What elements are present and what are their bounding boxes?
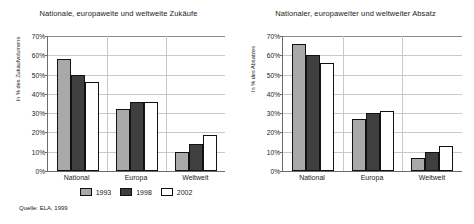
x-axis-tick-national: National xyxy=(47,174,106,181)
y-axis-tick-right: 0% xyxy=(250,168,280,175)
bar-groups xyxy=(283,36,462,171)
x-axis-tick-labels-right: NationalEuropaWeltweit xyxy=(282,174,462,181)
bar-group xyxy=(166,36,225,171)
y-axis-tick-right: 30% xyxy=(250,110,280,117)
y-axis-tick-right: 60% xyxy=(250,52,280,59)
bar-1998-Europa xyxy=(130,102,144,171)
y-axis-tick-left: 50% xyxy=(15,71,45,78)
bar-1998-Weltweit xyxy=(189,144,203,171)
x-axis-tick-weltweit: Weltweit xyxy=(166,174,225,181)
legend-item-1998: 1998 xyxy=(120,188,152,196)
legend-item-2002: 2002 xyxy=(161,188,193,196)
x-axis-tick-weltweit: Weltweit xyxy=(402,174,462,181)
y-axis-tick-left: 70% xyxy=(15,33,45,40)
bar-1998-Weltweit xyxy=(425,152,439,171)
bar-1993-Weltweit xyxy=(175,152,189,171)
chart-title-right: Nationaler, europaweiter und weltweiter … xyxy=(237,9,474,18)
y-axis-tick-left: 0% xyxy=(15,168,45,175)
figure-container: Nationale, europaweite und weltweite Zuk… xyxy=(0,0,474,224)
bar-2002-National xyxy=(320,63,334,171)
bar-1998-Europa xyxy=(366,113,380,171)
bar-2002-Europa xyxy=(380,111,394,171)
y-axis-tickmark xyxy=(280,171,283,172)
legend-item-1993: 1993 xyxy=(80,188,112,196)
chart-title-left: Nationale, europaweite und weltweite Zuk… xyxy=(0,9,237,18)
bar-1993-National xyxy=(292,44,306,171)
bar-2002-Europa xyxy=(144,102,158,171)
bar-1993-Weltweit xyxy=(411,158,425,172)
legend-label-1998: 1998 xyxy=(136,189,152,196)
y-axis-tick-right: 50% xyxy=(250,71,280,78)
bar-2002-Weltweit xyxy=(439,146,453,171)
legend-label-1993: 1993 xyxy=(96,189,112,196)
source-note: Quelle: ELA, 1999 xyxy=(19,205,68,211)
bar-1993-Europa xyxy=(116,109,130,171)
bar-1998-National xyxy=(71,75,85,171)
x-axis-tick-europa: Europa xyxy=(342,174,402,181)
y-axis-tick-left: 30% xyxy=(15,110,45,117)
bar-2002-Weltweit xyxy=(203,135,217,171)
chart-panel-absatz: Nationaler, europaweiter und weltweiter … xyxy=(237,0,474,200)
y-axis-tick-right: 10% xyxy=(250,148,280,155)
x-axis-tick-labels-left: NationalEuropaWeltweit xyxy=(47,174,225,181)
bar-group xyxy=(107,36,166,171)
bar-1993-Europa xyxy=(352,119,366,171)
y-axis-tick-right: 40% xyxy=(250,90,280,97)
legend-swatch-icon-1998 xyxy=(120,188,132,196)
bar-1993-National xyxy=(57,59,71,171)
plot-area-right: 0%10%20%30%40%50%60%70% xyxy=(282,36,462,172)
bar-groups xyxy=(48,36,225,171)
x-axis-tick-europa: Europa xyxy=(106,174,165,181)
bar-2002-National xyxy=(85,82,99,171)
legend-swatch-icon-2002 xyxy=(161,188,173,196)
bar-group xyxy=(402,36,462,171)
bar-group xyxy=(343,36,403,171)
y-axis-tick-left: 20% xyxy=(15,129,45,136)
legend-swatch-icon-1993 xyxy=(80,188,92,196)
x-axis-tick-national: National xyxy=(282,174,342,181)
chart-panel-zukaeufe: Nationale, europaweite und weltweite Zuk… xyxy=(0,0,237,200)
y-axis-tick-left: 10% xyxy=(15,148,45,155)
legend-label-2002: 2002 xyxy=(177,189,193,196)
plot-area-left: 0%10%20%30%40%50%60%70% xyxy=(47,36,225,172)
y-axis-tickmark xyxy=(45,171,48,172)
y-axis-tick-left: 60% xyxy=(15,52,45,59)
bar-group xyxy=(283,36,343,171)
y-axis-tick-left: 40% xyxy=(15,90,45,97)
bar-group xyxy=(48,36,107,171)
chart-legend: 199319982002 xyxy=(47,188,225,196)
y-axis-tick-right: 20% xyxy=(250,129,280,136)
bar-1998-National xyxy=(306,55,320,171)
y-axis-tick-right: 70% xyxy=(250,33,280,40)
